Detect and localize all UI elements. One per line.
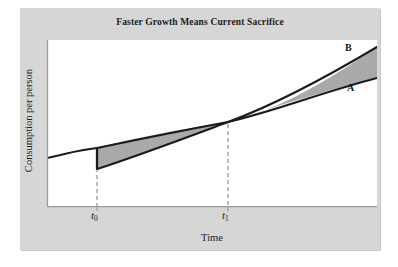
x-tick-label-t1-sub: 1 bbox=[225, 214, 229, 223]
x-tick-label-t1: t1 bbox=[222, 209, 229, 221]
curve-label-a: A bbox=[347, 82, 354, 93]
plot-background bbox=[47, 40, 377, 207]
x-tick-label-t0-sub: 0 bbox=[94, 214, 98, 223]
plot-area bbox=[0, 0, 398, 267]
curve-label-b: B bbox=[345, 42, 352, 53]
figure-root: Faster Growth Means Current Sacrifice Co… bbox=[0, 0, 398, 267]
x-tick-label-t0: t0 bbox=[91, 209, 98, 221]
chart-svg bbox=[0, 0, 398, 267]
